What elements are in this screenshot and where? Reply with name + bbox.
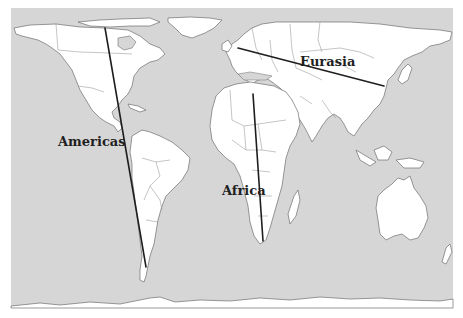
world-map-svg: Americas Eurasia Africa — [0, 0, 463, 318]
label-africa: Africa — [221, 183, 266, 198]
label-eurasia: Eurasia — [300, 54, 356, 69]
world-map: Americas Eurasia Africa — [0, 0, 463, 318]
label-americas: Americas — [57, 134, 126, 149]
